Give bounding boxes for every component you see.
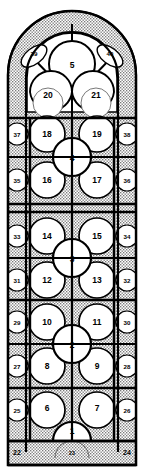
panel-label-9: 9 [95, 361, 100, 371]
panel-label-38: 38 [124, 131, 131, 138]
panel-label-14: 14 [42, 231, 52, 241]
panel-label-2: 2 [70, 340, 75, 350]
panel-label-3: 3 [70, 254, 75, 264]
panel-label-16: 16 [42, 175, 52, 185]
panel-label-20: 20 [43, 90, 53, 100]
panel-label-23: 23 [69, 450, 75, 456]
panel-label-21: 21 [91, 90, 101, 100]
panel-label-15: 15 [92, 231, 102, 241]
stained-glass-window-diagram: 1 2 3 4 5 6 7 8 9 10 11 12 13 14 15 16 1… [0, 0, 144, 473]
panel-label-40: 40 [107, 50, 114, 57]
panel-label-36: 36 [124, 177, 131, 184]
panel-label-10: 10 [42, 317, 52, 327]
panel-label-29: 29 [14, 319, 21, 326]
panel-label-25: 25 [14, 407, 21, 414]
panel-label-27: 27 [14, 363, 21, 370]
panel-label-37: 37 [14, 131, 21, 138]
panel-label-11: 11 [93, 317, 102, 327]
panel-label-31: 31 [14, 277, 21, 284]
panel-label-28: 28 [124, 363, 131, 370]
window-svg: 1 2 3 4 5 6 7 8 9 10 11 12 13 14 15 16 1… [0, 0, 144, 473]
panel-label-5: 5 [70, 60, 75, 70]
panel-label-17: 17 [92, 175, 102, 185]
panel-label-13: 13 [92, 275, 102, 285]
panel-label-22: 22 [13, 449, 21, 456]
panel-label-39: 39 [31, 50, 38, 57]
panel-label-24: 24 [123, 449, 131, 456]
panel-label-26: 26 [124, 407, 131, 414]
panel-label-7: 7 [95, 403, 100, 413]
panel-label-30: 30 [124, 319, 131, 326]
panel-label-35: 35 [14, 177, 21, 184]
panel-label-4: 4 [70, 153, 75, 163]
panel-label-33: 33 [14, 233, 21, 240]
panel-label-1: 1 [70, 426, 75, 436]
panel-label-6: 6 [45, 403, 50, 413]
panel-label-8: 8 [45, 361, 50, 371]
panel-label-18: 18 [42, 129, 52, 139]
panel-label-34: 34 [124, 233, 131, 240]
panel-label-19: 19 [92, 129, 102, 139]
panel-label-32: 32 [124, 277, 131, 284]
panel-label-12: 12 [42, 275, 52, 285]
